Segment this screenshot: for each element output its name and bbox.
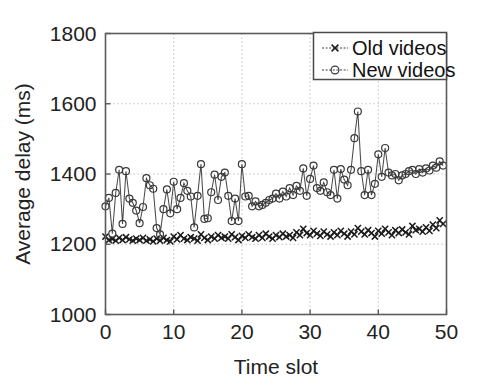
data-marker xyxy=(297,232,303,238)
x-tick-labels-group: 01020304050 xyxy=(100,320,459,343)
legend-item-label: New videos xyxy=(352,59,455,81)
data-marker xyxy=(351,231,357,237)
chart-canvas: 01020304050 10001200140016001800 Time sl… xyxy=(0,0,480,387)
y-axis-title: Average delay (ms) xyxy=(11,83,34,265)
y-tick-label: 1400 xyxy=(50,162,97,185)
data-marker xyxy=(290,235,296,241)
data-marker xyxy=(433,225,439,231)
x-tick-label: 40 xyxy=(367,320,390,343)
y-tick-label: 1200 xyxy=(50,232,97,255)
x-tick-label: 20 xyxy=(230,320,253,343)
data-marker xyxy=(426,228,432,234)
x-tick-label: 50 xyxy=(435,320,458,343)
y-tick-labels-group: 10001200140016001800 xyxy=(50,22,97,326)
series-new-videos xyxy=(102,108,447,238)
legend[interactable]: Old videosNew videos xyxy=(314,33,456,82)
data-marker xyxy=(372,233,378,239)
x-tick-label: 0 xyxy=(100,320,112,343)
data-marker xyxy=(440,221,446,227)
x-axis-title: Time slot xyxy=(234,355,319,378)
figure-container: 01020304050 10001200140016001800 Time sl… xyxy=(0,0,480,387)
data-series-group xyxy=(102,108,447,245)
y-tick-label: 1800 xyxy=(50,22,97,45)
x-tick-label: 30 xyxy=(298,320,321,343)
x-tick-label: 10 xyxy=(162,320,185,343)
y-tick-label: 1000 xyxy=(50,303,97,326)
y-tick-label: 1600 xyxy=(50,92,97,115)
legend-item-label: Old videos xyxy=(352,37,447,59)
